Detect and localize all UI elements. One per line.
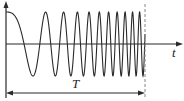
duration-label: T	[72, 76, 79, 92]
duration-arrow-left-icon	[6, 91, 13, 96]
duration-arrow-right-icon	[138, 91, 145, 96]
time-axis-label: t	[172, 45, 176, 61]
t-axis-arrow-icon	[176, 42, 183, 47]
y-axis-arrow-icon	[4, 1, 9, 8]
chirp-diagram	[0, 0, 184, 101]
